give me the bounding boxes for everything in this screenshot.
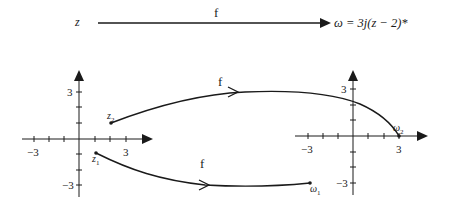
w-plane-axes — [295, 70, 428, 195]
mapping-label: f — [214, 5, 219, 20]
w-y-tick-3: 3 — [341, 83, 347, 95]
w-y-tick-neg3: −3 — [336, 177, 348, 189]
z-x-axis-arrow-icon — [142, 134, 153, 144]
mapping-equation: ω = 3j(z − 2)* — [334, 16, 408, 30]
point-w1: ω1 — [308, 181, 321, 197]
z-plane-axes — [22, 70, 153, 197]
upper-mapping-label: f — [218, 74, 223, 89]
z-y-tick-3: 3 — [67, 86, 73, 98]
z2-label: z2 — [106, 110, 115, 124]
header-mapping: z f ω = 3j(z − 2)* — [74, 5, 408, 30]
point-z2: z2 — [106, 110, 115, 125]
lower-mapping-label: f — [200, 156, 205, 171]
w-x-tick-neg3: −3 — [301, 143, 313, 155]
z2-to-w2-path — [111, 91, 399, 136]
w-x-tick-3: 3 — [396, 143, 402, 155]
w-x-axis-arrow-icon — [417, 131, 428, 141]
point-w2: ω2 — [393, 122, 404, 138]
complex-mapping-diagram: z f ω = 3j(z − 2)* −3 3 3 −3 — [0, 0, 449, 223]
lower-mapping-curve: f — [96, 153, 310, 190]
z1-label: z1 — [91, 153, 100, 167]
w-y-axis-arrow-icon — [348, 70, 358, 81]
w1-label: ω1 — [310, 183, 321, 197]
z-y-tick-neg3: −3 — [62, 179, 74, 191]
z-y-axis-arrow-icon — [74, 70, 84, 81]
domain-label: z — [74, 15, 80, 29]
z-x-tick-3: 3 — [123, 146, 129, 158]
mapping-arrow-head-icon — [320, 18, 331, 28]
z-x-tick-neg3: −3 — [27, 146, 39, 158]
